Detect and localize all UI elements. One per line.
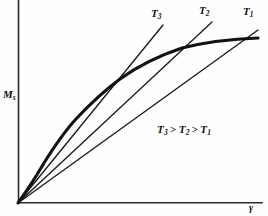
curve-label-t2-sub: 2	[206, 9, 210, 18]
inequality-operator-2: >	[190, 123, 201, 135]
curve-label-t2-base: T	[199, 4, 206, 16]
x-axis-label: γ	[249, 203, 253, 213]
curve-label-t1: T1	[243, 6, 253, 17]
curve-label-t3: T3	[151, 8, 161, 19]
y-axis-label-base: M	[3, 88, 13, 100]
figure-plot-svg	[0, 0, 268, 216]
inequality-t2-sub: 2	[186, 128, 190, 137]
inequality-t2-base: T	[179, 123, 186, 135]
master-curve-path	[18, 38, 258, 203]
inequality-t1-sub: 1	[207, 128, 211, 137]
curve-label-t1-sub: 1	[250, 10, 254, 19]
inequality-operator-1: >	[168, 123, 179, 135]
temperature-inequality-annotation: T3>T2>T1	[157, 124, 211, 135]
curve-label-t3-base: T	[151, 7, 158, 19]
curve-label-t2: T2	[199, 5, 209, 16]
curve-label-t3-sub: 3	[158, 12, 162, 21]
figure-container: T3 T2 T1 Ms γ T3>T2>T1	[0, 0, 268, 216]
y-axis-label-sub: s	[13, 93, 16, 102]
y-axis-label: Ms	[3, 89, 16, 100]
inequality-t3-base: T	[157, 123, 164, 135]
curve-label-t1-base: T	[243, 5, 250, 17]
inequality-t3-sub: 3	[164, 128, 168, 137]
